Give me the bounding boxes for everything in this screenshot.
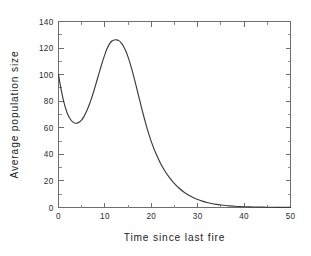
y-tick-label: 80	[44, 97, 54, 106]
x-axis-title: Time since last fire	[124, 232, 226, 243]
population-line-chart: 0 10 20 30 40 50 0 20 40 60 80 100 120 1…	[0, 0, 311, 256]
x-tick-label: 50	[286, 212, 296, 221]
y-axis-title: Average population size	[9, 50, 20, 178]
y-tick-label: 120	[39, 44, 54, 53]
x-tick-label: 0	[56, 212, 61, 221]
x-tick-label: 30	[193, 212, 203, 221]
y-tick-label: 60	[44, 124, 54, 133]
x-tick-label: 20	[146, 212, 156, 221]
y-tick-label: 100	[39, 71, 54, 80]
x-tick-label: 40	[239, 212, 249, 221]
y-tick-label: 40	[44, 150, 54, 159]
x-tick-label: 10	[100, 212, 110, 221]
y-tick-label: 0	[49, 204, 54, 213]
y-tick-label: 20	[44, 177, 54, 186]
chart-figure: 0 10 20 30 40 50 0 20 40 60 80 100 120 1…	[0, 0, 311, 256]
y-tick-label: 140	[39, 18, 54, 27]
